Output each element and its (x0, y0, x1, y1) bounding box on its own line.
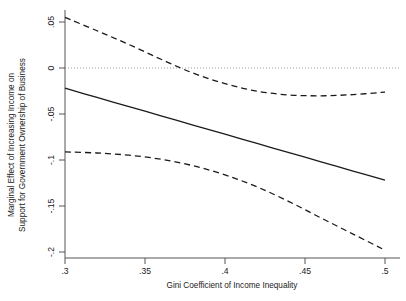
x-tick-label: .45 (299, 266, 311, 276)
y-tick-label: .05 (46, 16, 56, 28)
x-tick-label: .3 (61, 266, 68, 276)
marginal-effects-plot: .050-.05-.1-.15-.2 .3.35.4.45.5 Gini Coe… (0, 0, 406, 301)
y-axis-title-line2: Support for Government Ownership of Busi… (18, 58, 27, 232)
x-tick-label: .5 (381, 266, 388, 276)
y-tick-label: -.2 (46, 247, 56, 257)
y-axis-title-line1: Marginal Effect of Increasing Income on (7, 72, 16, 217)
y-tick-label: -.15 (46, 198, 56, 213)
plot-background (0, 0, 406, 301)
y-tick-label: -.05 (46, 106, 56, 121)
x-tick-label: .35 (139, 266, 151, 276)
x-tick-label: .4 (221, 266, 228, 276)
y-tick-label: -.1 (46, 155, 56, 165)
chart-figure: .050-.05-.1-.15-.2 .3.35.4.45.5 Gini Coe… (0, 0, 406, 301)
y-tick-label: 0 (46, 65, 56, 70)
x-axis-title: Gini Coefficient of Income Inequality (167, 281, 299, 290)
